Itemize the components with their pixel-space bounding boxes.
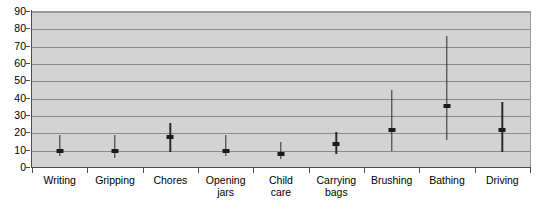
data-point-marker (56, 149, 63, 153)
x-tick-mark (198, 168, 199, 173)
y-tick-mark (26, 28, 30, 29)
y-tick-mark (26, 167, 30, 168)
x-tick-label: Gripping (87, 174, 142, 186)
data-point-marker (167, 135, 174, 139)
y-tick-mark (26, 80, 30, 81)
x-tick-label: Opening jars (198, 174, 253, 198)
x-tick-label: Chores (143, 174, 198, 186)
x-tick-label: Child care (253, 174, 308, 198)
y-tick-mark (26, 132, 30, 133)
errorbar-group (87, 12, 142, 168)
data-point-marker (388, 128, 395, 132)
x-tick-mark (87, 168, 88, 173)
errorbar-whisker (114, 135, 115, 158)
y-tick-mark (26, 98, 30, 99)
x-tick-label: Bathing (419, 174, 474, 186)
y-tick-label: 70 (14, 41, 26, 51)
y-tick-label: 80 (14, 23, 26, 33)
errorbar-whisker (280, 142, 281, 159)
x-tick-label: Brushing (364, 174, 419, 186)
y-tick-label: 10 (14, 145, 26, 155)
x-tick-mark (253, 168, 254, 173)
y-axis: 0102030405060708090 (0, 0, 30, 180)
errorbar-group (475, 12, 530, 168)
y-tick-mark (26, 11, 30, 12)
errorbar-whisker (59, 135, 60, 156)
x-tick-mark (364, 168, 365, 173)
y-tick-label: 40 (14, 93, 26, 103)
x-tick-mark (143, 168, 144, 173)
data-point-marker (111, 149, 118, 153)
errorbar-group (309, 12, 364, 168)
x-tick-label: Driving (475, 174, 530, 186)
data-point-marker (499, 128, 506, 132)
errorbar-group (419, 12, 474, 168)
errorbar-whisker (446, 36, 447, 140)
data-point-marker (333, 142, 340, 146)
y-tick-label: 20 (14, 127, 26, 137)
y-tick-label: 60 (14, 58, 26, 68)
data-point-marker (277, 152, 284, 156)
x-tick-mark (309, 168, 310, 173)
y-tick-mark (26, 63, 30, 64)
errorbar-whisker (225, 135, 226, 156)
data-point-marker (222, 149, 229, 153)
x-tick-label: Carrying bags (309, 174, 364, 198)
x-tick-mark (419, 168, 420, 173)
y-tick-mark (26, 46, 30, 47)
errorbar-group (364, 12, 419, 168)
x-tick-mark (32, 168, 33, 173)
plot-area (32, 11, 531, 168)
errorbar-whisker (391, 90, 392, 151)
x-tick-mark (475, 168, 476, 173)
y-tick-label: 50 (14, 75, 26, 85)
y-tick-mark (26, 150, 30, 151)
y-tick-label: 30 (14, 110, 26, 120)
x-tick-label: Writing (32, 174, 87, 186)
y-tick-mark (26, 115, 30, 116)
y-tick-label: 90 (14, 6, 26, 16)
errorbar-group (198, 12, 253, 168)
x-tick-mark (530, 168, 531, 173)
errorbar-group (253, 12, 308, 168)
errorbar-group (32, 12, 87, 168)
chart-container: 0102030405060708090 WritingGrippingChore… (0, 0, 547, 214)
errorbar-group (143, 12, 198, 168)
x-axis-ticks (32, 168, 530, 173)
data-point-marker (443, 104, 450, 108)
x-axis: WritingGrippingChoresOpening jarsChild c… (32, 174, 530, 208)
